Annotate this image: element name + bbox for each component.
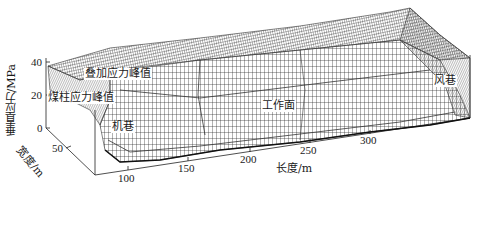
annotation-machine-roadway: 机巷 [111, 121, 135, 133]
annotation-air-roadway: 风巷 [433, 75, 457, 87]
x-tick-100: 100 [118, 172, 135, 184]
x-tick-200: 200 [240, 153, 257, 165]
annotation-pillar-peak: 煤柱应力峰值 [47, 92, 115, 104]
x-tick-150: 150 [178, 162, 195, 174]
annotation-superposed-peak: 叠加应力峰值 [84, 68, 152, 80]
y-tick-0: 0 [37, 122, 43, 134]
annotation-working-face: 工作面 [261, 100, 296, 112]
x-axis-label: 长度/m [276, 163, 312, 175]
y-tick-20: 20 [31, 89, 42, 101]
z-tick-50: 50 [52, 142, 63, 154]
x-tick-300: 300 [360, 134, 377, 146]
y-axis-label: 垂直应力/MPa [6, 64, 20, 136]
x-tick-250: 250 [300, 144, 317, 156]
y-tick-40: 40 [31, 56, 42, 68]
